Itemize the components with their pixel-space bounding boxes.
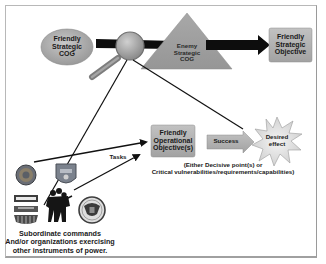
air-force-emblem-icon (56, 164, 76, 183)
subordinate-commands-caption: Subordinate commands And/or organization… (2, 230, 118, 255)
label-line: COG (43, 50, 91, 58)
usaid-logo-icon (14, 195, 38, 224)
friendly-operational-objective-label: Friendly Operational Objective(s) (149, 129, 197, 152)
tasks-label: Tasks (104, 154, 132, 161)
label-line: Friendly (43, 35, 91, 43)
caption-line: other instruments of power. (2, 247, 118, 255)
state-department-seal-icon (79, 197, 105, 223)
army-seal-icon (16, 165, 36, 185)
label-line: Strategic (268, 41, 313, 49)
label-line: Friendly (268, 33, 313, 41)
decisive-points-note: (Either Decisive point(s) or Critical vu… (128, 162, 318, 175)
label-line: Strategic (43, 43, 91, 51)
label-line: Operational (149, 137, 197, 145)
label-line: Objective (268, 48, 313, 56)
label-line: Friendly (149, 129, 197, 137)
magnifier-line-to-effect (133, 60, 243, 129)
success-label: Success (207, 138, 245, 145)
label-line: COG (164, 56, 210, 63)
magnifier-lens (116, 32, 144, 60)
desired-effect-label: Desired effect (260, 134, 294, 147)
label-line: effect (260, 141, 294, 148)
magnifier-icon (92, 58, 118, 77)
note-line: Critical vulnerabilities/requirements/ca… (128, 169, 318, 176)
friendly-strategic-objective-label: Friendly Strategic Objective (268, 33, 313, 56)
label-line: Objective(s) (149, 144, 197, 152)
enemy-strategic-cog-label: Enemy Strategic COG (164, 43, 210, 63)
soldiers-silhouette-icon (46, 188, 72, 222)
friendly-strategic-cog-label: Friendly Strategic COG (43, 35, 91, 58)
